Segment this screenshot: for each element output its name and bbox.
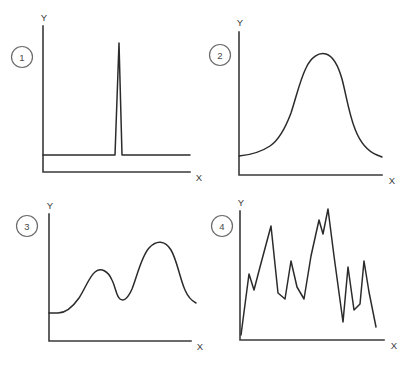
plot-panel-2: 2 Y X [207,0,414,193]
panel-2-y-axis-label: Y [237,17,244,28]
panel-4-svg: 4 Y X [207,193,414,386]
plot-panel-4: 4 Y X [207,193,414,386]
panel-1-badge-label: 1 [19,52,24,63]
panel-4-y-axis-label: Y [238,197,245,208]
panel-4-data-curve [241,209,376,335]
panel-1-svg: 1 Y X [0,0,207,193]
panel-1-x-axis-label: X [196,172,203,183]
panel-3-y-axis-label: Y [47,200,54,211]
panel-4-x-axis-label: X [391,340,398,351]
panel-2-data-curve [239,54,382,157]
panel-2-axes [239,32,382,175]
panel-2-badge-label: 2 [217,50,222,61]
four-panel-plot-figure: 1 Y X 2 Y X 3 Y X [0,0,414,386]
panel-2-x-axis-label: X [389,175,396,186]
panel-3-data-curve [49,242,196,313]
plot-panel-3: 3 Y X [0,193,207,386]
panel-2-svg: 2 Y X [207,0,414,193]
panel-3-badge-label: 3 [24,221,29,232]
panel-3-svg: 3 Y X [0,193,207,386]
panel-4-badge-label: 4 [219,221,224,232]
plot-panel-1: 1 Y X [0,0,207,193]
panel-3-x-axis-label: X [197,341,204,352]
panel-3-axes [49,214,191,341]
panel-1-data-curve [43,43,190,155]
panel-1-y-axis-label: Y [41,12,48,23]
